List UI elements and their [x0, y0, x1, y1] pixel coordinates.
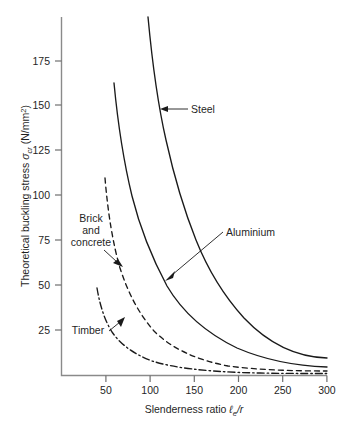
- x-axis-title: Slenderness ratio ℓe/r: [145, 403, 244, 418]
- brick-leader-line: [104, 250, 117, 262]
- chart-canvas: 175 150 125 100 75 50 25 50 100 150 200 …: [0, 0, 355, 430]
- x-tick-label-200: 200: [230, 384, 248, 396]
- label-brick-line2: and: [82, 224, 100, 236]
- curve-brick-and-concrete: [105, 178, 327, 371]
- y-axis-title-unit-close: ): [19, 105, 31, 109]
- timber-arrowhead-icon: [117, 317, 125, 327]
- y-tick-label-175: 175: [32, 55, 50, 67]
- annotation-timber: Timber: [72, 317, 125, 336]
- x-tick-label-300: 300: [318, 384, 336, 396]
- label-brick-line1: Brick: [79, 212, 103, 224]
- curve-timber: [97, 288, 327, 374]
- aluminium-arrowhead-icon: [165, 271, 175, 281]
- x-tick-label-100: 100: [141, 384, 159, 396]
- x-tick-label-250: 250: [274, 384, 292, 396]
- x-tick-label-150: 150: [186, 384, 204, 396]
- y-tick-label-150: 150: [32, 99, 50, 111]
- label-aluminium: Aluminium: [226, 226, 275, 238]
- curve-aluminium: [114, 83, 327, 367]
- x-axis-title-tail: /r: [236, 403, 244, 415]
- axis-lines: [62, 17, 328, 376]
- aluminium-leader-line: [172, 232, 223, 275]
- x-tick-marks: [106, 376, 327, 383]
- y-axis-title: Theoretical buckling stress σcr (N/mm2): [19, 105, 34, 287]
- curve-steel: [148, 17, 327, 358]
- steel-arrowhead-icon: [160, 106, 168, 112]
- y-tick-label-75: 75: [38, 234, 50, 246]
- x-tick-label-50: 50: [100, 384, 112, 396]
- y-axis-title-unit-open: (N/mm: [19, 112, 31, 147]
- y-axis-title-main: Theoretical buckling stress: [19, 160, 31, 287]
- label-timber: Timber: [72, 324, 105, 336]
- label-brick-line3: concrete: [71, 236, 111, 248]
- axis-frame: [62, 17, 328, 376]
- annotation-brick-and-concrete: Brick and concrete: [71, 212, 123, 267]
- y-tick-labels: 175 150 125 100 75 50 25: [32, 55, 50, 336]
- x-axis-title-main: Slenderness ratio: [145, 403, 230, 415]
- annotation-steel: Steel: [160, 103, 215, 115]
- y-tick-label-25: 25: [38, 324, 50, 336]
- x-tick-labels: 50 100 150 200 250 300: [100, 384, 336, 396]
- label-steel: Steel: [191, 103, 215, 115]
- y-tick-label-125: 125: [32, 144, 50, 156]
- timber-leader-line: [109, 322, 120, 331]
- buckling-stress-chart: 175 150 125 100 75 50 25 50 100 150 200 …: [0, 0, 355, 430]
- y-tick-marks: [55, 61, 62, 330]
- annotation-aluminium: Aluminium: [165, 226, 275, 281]
- y-tick-label-100: 100: [32, 189, 50, 201]
- y-tick-label-50: 50: [38, 279, 50, 291]
